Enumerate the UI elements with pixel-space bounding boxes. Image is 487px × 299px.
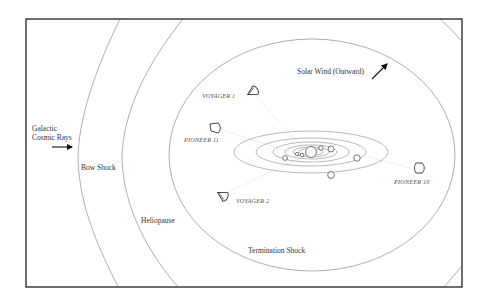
voyager-1-trail bbox=[253, 93, 300, 145]
cosmic-rays-label-line2: Cosmic Rays bbox=[32, 133, 72, 142]
planet-venus bbox=[300, 153, 304, 157]
voyager-2-icon bbox=[215, 188, 230, 202]
pioneer-10-icon bbox=[415, 163, 425, 173]
planet-mars bbox=[283, 156, 288, 161]
outer-arc-top-right bbox=[440, 19, 462, 41]
heliopause-label: Heliopause bbox=[141, 216, 175, 225]
cosmic-rays-label-line1: Galactic bbox=[32, 124, 58, 133]
planet-uranus bbox=[328, 172, 335, 179]
voyager-1-icon bbox=[245, 85, 260, 99]
voyager-1-label: VOYAGER 1 bbox=[202, 92, 235, 99]
pioneer-11-icon bbox=[210, 123, 220, 133]
pioneer-10-label: PIONEER 10 bbox=[393, 178, 430, 185]
pioneer-11-trail bbox=[216, 128, 290, 152]
heliopause-curve bbox=[122, 19, 183, 287]
voyager-2-trail bbox=[222, 158, 300, 195]
heliosphere-diagram: Bow Shock Heliopause Termination Shock V… bbox=[0, 0, 487, 299]
termination-shock-label: Termination Shock bbox=[248, 246, 305, 255]
pioneer-11-label: PIONEER 11 bbox=[183, 136, 219, 143]
bow-shock-label: Bow Shock bbox=[81, 163, 116, 172]
planet-earth bbox=[319, 146, 323, 150]
sun bbox=[306, 147, 317, 158]
solar-system bbox=[234, 131, 388, 178]
planet-mercury bbox=[295, 152, 298, 155]
bow-shock-curve bbox=[78, 19, 120, 287]
planet-saturn bbox=[354, 155, 360, 161]
outer-arc-bottom-right bbox=[444, 266, 462, 287]
solar-wind-label: Solar Wind (Outward) bbox=[297, 67, 365, 76]
voyager-2-label: VOYAGER 2 bbox=[236, 197, 269, 204]
diagram-frame bbox=[26, 19, 462, 287]
planet-jupiter bbox=[328, 146, 334, 152]
solar-wind-arrow-icon bbox=[372, 64, 387, 79]
